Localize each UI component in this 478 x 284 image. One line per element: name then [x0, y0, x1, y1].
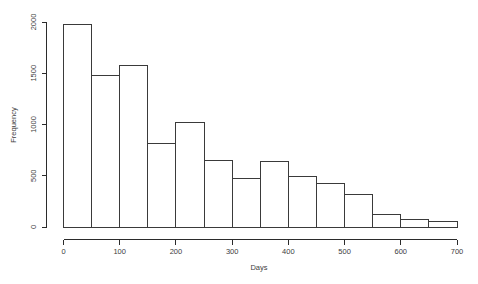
- histogram-bar: [204, 161, 232, 227]
- y-axis-title: Frequency: [9, 107, 18, 143]
- x-axis-tick-label: 0: [61, 247, 65, 256]
- histogram-bar: [148, 144, 176, 227]
- x-axis-tick-label: 600: [395, 247, 408, 256]
- x-axis-tick-label: 200: [170, 247, 183, 256]
- histogram-plot-area: 0500100015002000 0100200300400500600700 …: [0, 0, 478, 284]
- x-axis-tick-label: 700: [451, 247, 464, 256]
- x-axis-title: Days: [250, 263, 267, 272]
- histogram-bar: [176, 123, 204, 227]
- histogram-bar: [345, 195, 373, 227]
- histogram-bar: [316, 184, 344, 227]
- histogram-bar: [288, 177, 316, 227]
- histogram-bar: [232, 179, 260, 227]
- y-axis-tick-label: 1500: [29, 65, 38, 82]
- histogram-bar: [401, 220, 429, 227]
- x-axis-tick-label: 400: [282, 247, 295, 256]
- y-axis-tick-label: 2000: [29, 14, 38, 31]
- histogram-bar: [429, 222, 457, 227]
- histogram-bar: [373, 215, 401, 227]
- x-axis-tick-label: 500: [338, 247, 351, 256]
- histogram-bar: [120, 66, 148, 227]
- histogram-bar: [260, 162, 288, 227]
- y-axis-tick-label: 0: [29, 225, 38, 229]
- histogram-bar: [64, 24, 92, 227]
- histogram-bar: [92, 75, 120, 227]
- histogram-svg: 0500100015002000 0100200300400500600700 …: [0, 0, 478, 284]
- x-axis-tick-label: 300: [226, 247, 239, 256]
- y-axis-tick-label: 500: [29, 169, 38, 182]
- y-axis-tick-label: 1000: [29, 116, 38, 133]
- x-axis-tick-label: 100: [113, 247, 126, 256]
